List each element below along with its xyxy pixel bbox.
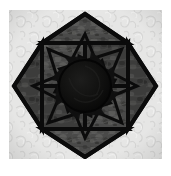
quilt-canvas	[0, 0, 171, 176]
quilt-block-image: Eight-pointed star quilt block in dark g…	[0, 0, 171, 176]
vignette-overlay	[9, 10, 162, 159]
